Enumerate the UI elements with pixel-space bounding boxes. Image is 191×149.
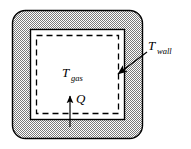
heat-flow-symbol: Q (76, 91, 86, 106)
thermal-system-figure: T gas T wall Q (0, 0, 191, 149)
gas-temperature-symbol: T (62, 65, 70, 80)
wall-temperature-subscript: wall (157, 46, 172, 56)
gas-temperature-subscript: gas (71, 73, 84, 83)
wall-temperature-symbol: T (148, 38, 156, 53)
thermal-system-diagram: T gas T wall Q (0, 0, 191, 149)
